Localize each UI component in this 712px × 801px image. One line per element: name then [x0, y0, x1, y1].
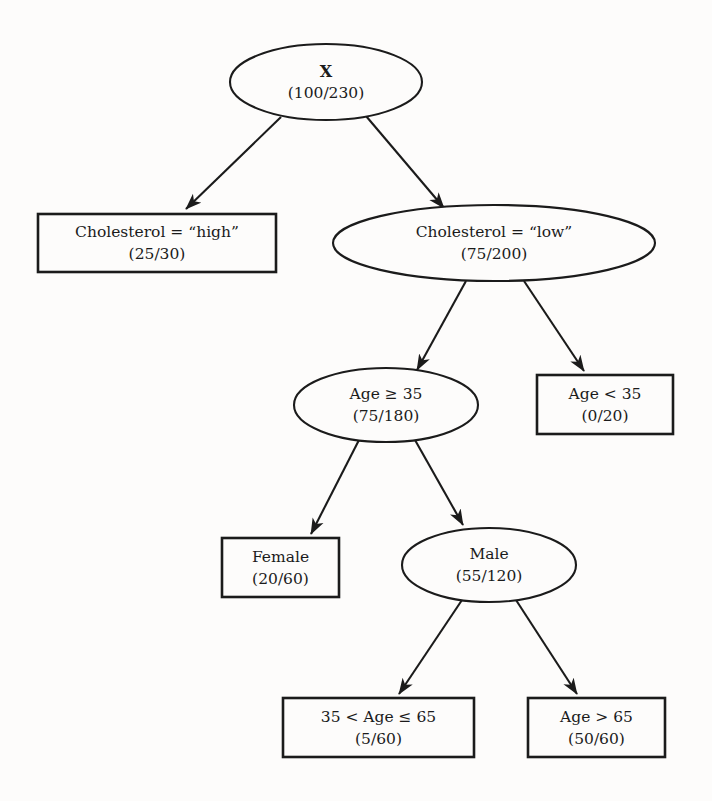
node-count-age_gt_65: (50/60) [568, 730, 625, 748]
node-count-chol_high: (25/30) [129, 245, 186, 263]
node-label-chol_low: Cholesterol = “low” [416, 223, 573, 241]
node-ellipse-chol_low [333, 205, 655, 281]
node-count-age_35_65: (5/60) [355, 730, 402, 748]
tree-node-age_gt_65: Age > 65(50/60) [528, 698, 665, 757]
node-label-age_lt_35: Age < 35 [568, 385, 642, 403]
tree-node-age_lt_35: Age < 35(0/20) [537, 375, 673, 434]
node-ellipse-root [230, 44, 422, 120]
edge-chol-low-age-lt-35 [524, 281, 584, 371]
tree-node-root: X(100/230) [230, 44, 422, 120]
node-count-age_lt_35: (0/20) [582, 407, 629, 425]
edge-age-ge-35-male [415, 440, 463, 525]
tree-node-chol_low: Cholesterol = “low”(75/200) [333, 205, 655, 281]
tree-node-female: Female(20/60) [222, 538, 339, 597]
edge-chol-low-age-ge-35 [417, 281, 466, 370]
node-count-male: (55/120) [456, 567, 523, 585]
tree-node-chol_high: Cholesterol = “high”(25/30) [38, 214, 276, 272]
node-count-root: (100/230) [288, 84, 365, 102]
node-count-chol_low: (75/200) [461, 245, 528, 263]
tree-node-male: Male(55/120) [402, 528, 576, 602]
edge-root-chol-low [366, 116, 444, 208]
edge-male-age-35-65 [399, 600, 462, 694]
node-count-age_ge_35: (75/180) [353, 407, 420, 425]
edge-root-chol-high [186, 117, 281, 209]
node-label-male: Male [469, 545, 508, 563]
decision-tree-figure: X(100/230)Cholesterol = “high”(25/30)Cho… [0, 0, 712, 801]
node-ellipse-age_ge_35 [294, 368, 478, 442]
edge-male-age-gt-65 [516, 600, 577, 694]
node-label-chol_high: Cholesterol = “high” [75, 223, 239, 241]
node-label-age_ge_35: Age ≥ 35 [349, 385, 423, 403]
node-label-age_gt_65: Age > 65 [559, 708, 633, 726]
edge-age-ge-35-female [311, 440, 359, 534]
node-label-root: X [320, 62, 333, 81]
tree-node-age_35_65: 35 < Age ≤ 65(5/60) [283, 698, 474, 757]
tree-canvas: X(100/230)Cholesterol = “high”(25/30)Cho… [0, 0, 712, 801]
tree-node-age_ge_35: Age ≥ 35(75/180) [294, 368, 478, 442]
node-ellipse-male [402, 528, 576, 602]
nodes-layer: X(100/230)Cholesterol = “high”(25/30)Cho… [38, 44, 673, 757]
node-count-female: (20/60) [252, 570, 309, 588]
node-label-age_35_65: 35 < Age ≤ 65 [321, 708, 436, 726]
node-label-female: Female [252, 548, 309, 566]
